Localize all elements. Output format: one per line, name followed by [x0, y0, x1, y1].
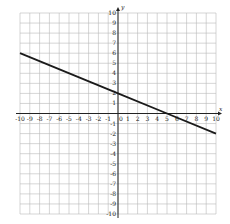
y-tick-label: -10 [106, 210, 116, 217]
x-axis-label: x [219, 105, 223, 112]
y-tick-label: 6 [112, 49, 116, 56]
x-tick-label: 3 [145, 115, 149, 122]
x-tick-label: 10 [212, 115, 220, 122]
y-tick-label: 3 [112, 79, 116, 86]
x-tick-label: 1 [126, 115, 130, 122]
y-tick-label: 7 [112, 39, 116, 46]
x-tick-label: -6 [56, 115, 62, 122]
x-tick-label: 4 [155, 115, 159, 122]
y-tick-label: 10 [108, 9, 116, 16]
x-tick-label: 9 [204, 115, 208, 122]
y-tick-label: 9 [112, 19, 116, 26]
y-axis-label: y [120, 3, 125, 11]
x-tick-label: 8 [194, 115, 198, 122]
x-tick-label: -8 [37, 115, 43, 122]
x-tick-label: -3 [86, 115, 92, 122]
y-tick-label: 8 [112, 29, 116, 36]
y-tick-label: 1 [112, 99, 116, 106]
y-tick-label: 5 [112, 59, 116, 66]
y-tick-label: -5 [110, 160, 116, 167]
y-tick-label: -6 [110, 170, 116, 177]
y-tick-label: -4 [110, 150, 116, 157]
x-tick-label: 2 [136, 115, 140, 122]
y-tick-label: -2 [110, 130, 116, 137]
y-tick-label: 4 [112, 69, 116, 76]
y-tick-label: -9 [110, 200, 116, 207]
x-tick-label: -4 [76, 115, 82, 122]
x-tick-label: -9 [27, 115, 33, 122]
x-tick-label: -10 [15, 115, 25, 122]
coordinate-plane: -10-9-8-7-6-5-4-3-2-10123456789101098765… [0, 0, 230, 224]
x-tick-label: 0 [119, 115, 123, 122]
y-tick-label: -1 [110, 120, 116, 127]
x-tick-label: -5 [66, 115, 72, 122]
x-tick-label: 5 [165, 115, 169, 122]
y-tick-label: -3 [110, 140, 116, 147]
x-tick-label: -2 [95, 115, 101, 122]
y-tick-label: -7 [110, 180, 116, 187]
axes [16, 7, 222, 218]
x-tick-label: -7 [46, 115, 52, 122]
y-tick-label: -8 [110, 190, 116, 197]
